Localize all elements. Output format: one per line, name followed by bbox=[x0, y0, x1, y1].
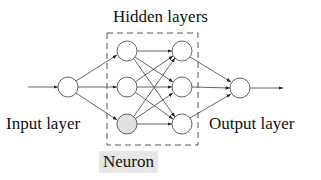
neuron-label: Neuron bbox=[99, 151, 158, 173]
hidden-layer-1-node-3 bbox=[117, 114, 137, 134]
input-layer-label: Input layer bbox=[6, 115, 80, 132]
output-node bbox=[230, 78, 250, 98]
hidden-layer-1-node-2 bbox=[117, 77, 137, 97]
hidden-layer-2-node-2 bbox=[172, 77, 192, 97]
hidden-layer-2-node-1 bbox=[172, 41, 192, 61]
hidden-layer-1-node-1 bbox=[117, 41, 137, 61]
hidden-layer-2-node-3 bbox=[172, 114, 192, 134]
neural-network-diagram bbox=[0, 0, 321, 180]
input-node bbox=[58, 77, 78, 97]
output-layer-label: Output layer bbox=[209, 115, 294, 132]
